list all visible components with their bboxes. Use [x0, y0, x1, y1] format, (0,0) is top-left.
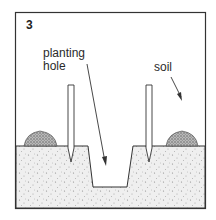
figure-number: 3	[26, 18, 33, 32]
planting-hole-label: planting hole	[43, 47, 85, 73]
stake-left	[68, 85, 74, 162]
soil-label: soil	[154, 61, 172, 74]
stake-right	[146, 85, 152, 162]
planting-diagram	[0, 0, 216, 220]
planting-hole-label-line2: hole	[43, 60, 85, 73]
